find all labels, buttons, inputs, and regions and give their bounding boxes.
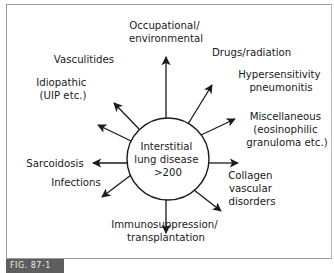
label-miscellaneous: Miscellaneous (eosinophilic granuloma et… [246, 111, 327, 148]
interstitial-lung-disease-diagram: Interstitial lung disease >200 Occupatio… [0, 0, 334, 273]
arrow-collagen [194, 190, 221, 211]
label-drugs: Drugs/radiation [212, 47, 291, 58]
figure-caption: FIG. 87-1 [6, 259, 64, 273]
label-infections: Infections [51, 177, 101, 188]
label-hypersensitivity: Hypersensitivity pneumonitis [238, 69, 324, 93]
arrow-vasculitides [114, 103, 139, 129]
label-sarcoidosis: Sarcoidosis [26, 158, 83, 169]
arrow-hypersensitivity [201, 119, 235, 135]
label-vasculitides: Vasculitides [54, 54, 114, 65]
label-collagen: Collagen vascular disorders [228, 170, 276, 207]
label-idiopathic: Idiopathic (UIP etc.) [36, 77, 89, 101]
arrow-idiopathic [98, 125, 131, 141]
label-occupational: Occupational/ environmental [129, 20, 203, 44]
arrow-infections [102, 175, 131, 197]
arrow-drugs [188, 85, 212, 124]
